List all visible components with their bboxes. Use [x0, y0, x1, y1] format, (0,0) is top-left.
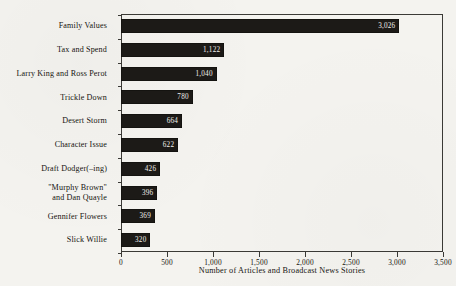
bar-value-label: 320	[135, 236, 146, 244]
bar-value-label: 3,026	[378, 22, 395, 30]
bar-value-label: 396	[142, 189, 153, 197]
bar: 369	[121, 209, 155, 223]
y-axis-category-label: Gennifer Flowers	[0, 212, 114, 221]
bar-row: 664	[121, 114, 182, 128]
bar-row: 396	[121, 186, 157, 200]
bar-value-label: 1,040	[196, 70, 213, 78]
bar-value-label: 780	[177, 93, 188, 101]
bar-value-label: 1,122	[203, 46, 220, 54]
bar-row: 369	[121, 209, 155, 223]
bar: 622	[121, 138, 178, 152]
bar: 3,026	[121, 19, 399, 33]
bar-value-label: 369	[140, 212, 151, 220]
bar-row: 320	[121, 233, 150, 247]
y-axis-category-label: Larry King and Ross Perot	[0, 69, 114, 78]
bar-row: 622	[121, 138, 178, 152]
y-axis-category-label: "Murphy Brown" and Dan Quayle	[0, 183, 114, 202]
bar-row: 1,122	[121, 43, 224, 57]
bar-row: 1,040	[121, 67, 217, 81]
y-axis-category-label: Trickle Down	[0, 93, 114, 102]
bar-row: 426	[121, 162, 160, 176]
x-axis-tick	[259, 252, 260, 257]
y-axis-category-label: Tax and Spend	[0, 45, 114, 54]
x-axis-tick	[213, 252, 214, 257]
bar-value-label: 426	[145, 165, 156, 173]
bar-value-label: 622	[163, 141, 174, 149]
bar: 1,122	[121, 43, 224, 57]
bar: 1,040	[121, 67, 217, 81]
y-axis-category-label: Family Values	[0, 21, 114, 30]
x-axis-tick	[167, 252, 168, 257]
bar: 664	[121, 114, 182, 128]
x-axis-tick	[351, 252, 352, 257]
bar: 396	[121, 186, 157, 200]
x-axis-tick	[305, 252, 306, 257]
y-axis-category-labels: Family ValuesTax and SpendLarry King and…	[0, 14, 114, 252]
bar-row: 3,026	[121, 19, 399, 33]
y-axis-category-label: Desert Storm	[0, 116, 114, 125]
x-axis-title: Number of Articles and Broadcast News St…	[121, 266, 443, 275]
y-axis-category-label: Character Issue	[0, 140, 114, 149]
bar-row: 780	[121, 90, 193, 104]
x-axis-tick	[121, 252, 122, 257]
y-axis-category-label: Slick Willie	[0, 235, 114, 244]
bar: 320	[121, 233, 150, 247]
bar: 426	[121, 162, 160, 176]
x-axis-tick	[443, 252, 444, 257]
y-axis-category-label: Draft Dodger(–ing)	[0, 164, 114, 173]
x-axis-tick	[397, 252, 398, 257]
bars-layer: 3,0261,1221,040780664622426396369320	[121, 14, 443, 252]
bar-value-label: 664	[167, 117, 178, 125]
bar-chart-figure: Family ValuesTax and SpendLarry King and…	[0, 0, 456, 286]
bar: 780	[121, 90, 193, 104]
